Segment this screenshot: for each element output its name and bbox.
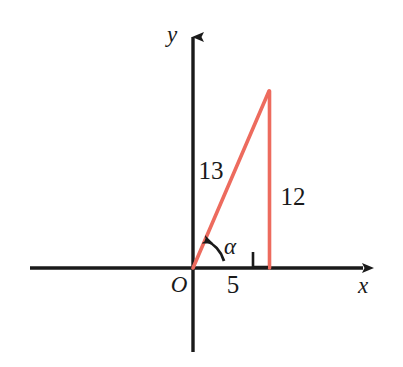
figure-canvas: y x O 13 12 5 α bbox=[0, 0, 403, 367]
hypotenuse-length-label: 13 bbox=[199, 157, 224, 184]
right-triangle-figure: y x O 13 12 5 α bbox=[0, 0, 403, 367]
y-axis-label: y bbox=[165, 22, 178, 47]
x-axis-label: x bbox=[357, 273, 369, 298]
horizontal-leg-length-label: 5 bbox=[227, 271, 240, 298]
angle-alpha-label: α bbox=[224, 234, 237, 259]
angle-alpha-arc bbox=[205, 240, 224, 261]
right-angle-marker bbox=[253, 252, 268, 267]
vertical-leg-length-label: 12 bbox=[281, 183, 306, 210]
origin-label: O bbox=[171, 272, 188, 297]
